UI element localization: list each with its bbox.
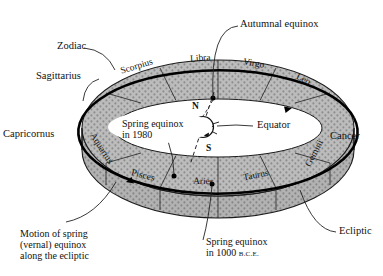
diagram-canvas: Zodiac Sagittarius Autumnal equinox Capr…: [0, 0, 383, 276]
label-ecliptic: Ecliptic: [339, 225, 372, 237]
segment-label-aries: Aries: [193, 176, 214, 187]
spring-equinox-1980-point: [172, 174, 177, 179]
bce-line-2: in 1000 B.C.E.: [206, 247, 267, 259]
label-autumnal-equinox: Autumnal equinox: [240, 18, 318, 30]
label-zodiac: Zodiac: [57, 40, 86, 52]
label-south-pole: S: [206, 143, 211, 154]
label-equator: Equator: [257, 119, 290, 131]
leader-zodiac: [84, 48, 115, 70]
callout-spring-equinox-1980: Spring equinox in 1980: [122, 118, 183, 140]
motion-line-2: (vernal) equinox: [20, 239, 89, 250]
bce-era: B.C.E.: [239, 250, 259, 258]
motion-line-3: along the ecliptic: [20, 250, 89, 261]
motion-line-1: Motion of spring: [20, 228, 89, 239]
label-sagittarius-outer: Sagittarius: [36, 70, 81, 82]
label-north-pole: N: [192, 101, 199, 112]
label-capricornus-outer: Capricornus: [3, 128, 54, 140]
caption-motion-of-spring-equinox: Motion of spring (vernal) equinox along …: [20, 228, 89, 262]
bce-line-1: Spring equinox: [206, 236, 267, 247]
bce-number: in 1000: [206, 247, 239, 258]
segment-label-libra: Libra: [190, 52, 211, 64]
label-cancer-outer: Cancer: [330, 130, 360, 142]
callout-line-1: Spring equinox: [122, 118, 183, 129]
callout-spring-equinox-1000bce: Spring equinox in 1000 B.C.E.: [206, 236, 267, 259]
callout-line-2: in 1980: [122, 129, 183, 140]
